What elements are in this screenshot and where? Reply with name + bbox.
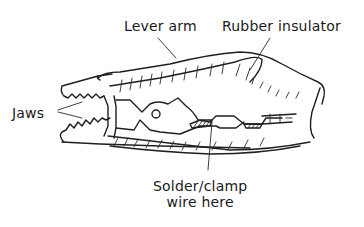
lever-arm-leader <box>158 38 176 58</box>
solder-area <box>190 120 262 128</box>
lower-jaw <box>60 118 250 148</box>
jaws-leader <box>58 102 82 118</box>
jaws-label: Jaws <box>12 105 44 121</box>
wire <box>262 114 296 124</box>
solder-label: Solder/clamp wire here <box>153 178 247 210</box>
lever-arm <box>98 52 324 104</box>
pivot-body <box>104 96 282 138</box>
lever-arm-label: Lever arm <box>124 18 197 34</box>
solder-label-line2: wire here <box>153 194 247 210</box>
solder-label-line1: Solder/clamp <box>153 178 247 194</box>
upper-jaw <box>61 74 112 98</box>
solder-leader <box>208 122 212 170</box>
alligator-clip-diagram: Lever arm Rubber insulator Jaws Solder/c… <box>0 0 364 227</box>
rubber-insulator-label: Rubber insulator <box>222 18 341 34</box>
rubber-insulator-leader <box>250 38 270 70</box>
